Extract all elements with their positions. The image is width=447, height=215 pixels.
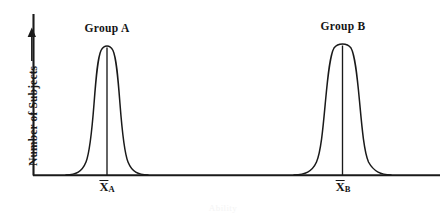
plot-canvas <box>0 0 447 215</box>
x-bar-subscript-b: B <box>345 184 351 194</box>
y-axis-label-text: Number of Subjects <box>27 66 39 166</box>
group-a-title: Group A <box>84 22 129 34</box>
y-axis-label: Number of Subjects <box>23 6 43 166</box>
group-b-mean-label: XB <box>336 181 351 194</box>
arrow-right-glyph <box>27 27 36 61</box>
group-b-title: Group B <box>320 20 365 32</box>
y-axis-arrow-icon <box>26 27 38 61</box>
group-a-mean-label: XA <box>99 181 114 194</box>
x-bar-symbol-b: X <box>336 181 345 194</box>
x-bar-subscript-a: A <box>108 184 114 194</box>
x-bar-symbol-a: X <box>99 181 108 194</box>
bottom-caption: Ability <box>209 203 237 213</box>
distribution-figure: Number of Subjects Group A Group B XA XB… <box>0 0 447 215</box>
